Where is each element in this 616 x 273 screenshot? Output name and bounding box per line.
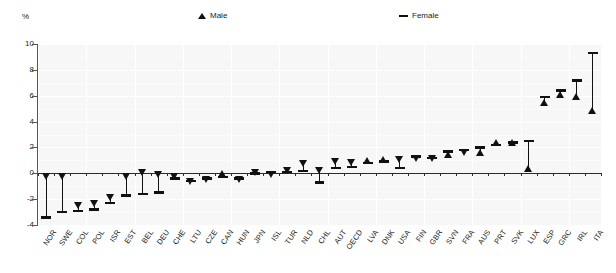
male-marker [476, 149, 484, 156]
male-marker [90, 200, 98, 207]
data-point-group[interactable] [408, 44, 424, 225]
male-marker [283, 167, 291, 174]
x-axis-category-label: CHE [170, 228, 187, 246]
male-marker [492, 139, 500, 146]
female-marker [73, 210, 83, 213]
data-point-group[interactable] [360, 44, 376, 225]
data-point-group[interactable] [344, 44, 360, 225]
male-marker [444, 151, 452, 158]
data-point-group[interactable] [215, 44, 231, 225]
male-marker [74, 202, 82, 209]
male-marker [299, 160, 307, 167]
x-axis-category-label: GBR [428, 228, 445, 247]
connector-stem [592, 53, 593, 114]
x-axis-category-label: AUS [476, 228, 492, 246]
female-marker [395, 167, 405, 170]
data-point-group[interactable] [569, 44, 585, 225]
data-point-group[interactable] [183, 44, 199, 225]
x-axis-category-label: ISR [108, 228, 123, 244]
data-point-group[interactable] [38, 44, 54, 225]
male-marker [331, 158, 339, 165]
data-point-group[interactable] [472, 44, 488, 225]
legend-item-female[interactable]: Female [399, 12, 439, 20]
male-marker [363, 157, 371, 164]
data-point-group[interactable] [54, 44, 70, 225]
data-point-group[interactable] [86, 44, 102, 225]
data-point-group[interactable] [392, 44, 408, 225]
data-point-group[interactable] [537, 44, 553, 225]
data-point-group[interactable] [135, 44, 151, 225]
data-point-group[interactable] [247, 44, 263, 225]
x-axis-category-label: NLD [300, 228, 316, 246]
female-marker [298, 170, 308, 173]
x-axis-category-label: TUR [283, 228, 299, 246]
data-point-group[interactable] [376, 44, 392, 225]
x-axis-category-label: ISL [270, 228, 284, 243]
male-marker [218, 170, 226, 177]
male-marker [138, 169, 146, 176]
data-point-group[interactable] [456, 44, 472, 225]
data-point-group[interactable] [151, 44, 167, 225]
male-marker [572, 93, 580, 100]
male-marker [170, 173, 178, 180]
x-axis-category-label: POL [91, 228, 107, 246]
y-axis-tick-label: 6 [8, 92, 34, 100]
female-marker [57, 211, 67, 214]
male-marker [186, 178, 194, 185]
x-axis-category-label: DEU [154, 228, 171, 246]
x-axis-category-label: BEL [139, 228, 155, 245]
x-axis-category-label: GRC [556, 228, 573, 247]
male-marker [460, 149, 468, 156]
data-point-group[interactable] [263, 44, 279, 225]
y-axis-tick-label: 8 [8, 66, 34, 74]
data-point-group[interactable] [118, 44, 134, 225]
x-axis-category-label: CAN [219, 228, 236, 246]
triangle-up-icon [198, 13, 206, 19]
x-axis-category-label: COL [74, 228, 90, 246]
y-axis-labels: -4-20246810 [0, 0, 34, 273]
x-axis-category-label: LUX [525, 228, 541, 245]
data-point-group[interactable] [199, 44, 215, 225]
data-point-group[interactable] [440, 44, 456, 225]
x-axis-category-label: FIN [414, 228, 428, 243]
data-point-group[interactable] [585, 44, 601, 225]
legend-item-male[interactable]: Male [198, 12, 227, 20]
data-point-group[interactable] [102, 44, 118, 225]
male-marker [58, 173, 66, 180]
x-axis-category-label: SWE [57, 228, 74, 247]
female-marker [475, 146, 485, 149]
data-point-group[interactable] [70, 44, 86, 225]
y-axis-tick-label: 0 [8, 169, 34, 177]
x-axis-category-label: SVN [444, 228, 460, 246]
data-point-group[interactable] [279, 44, 295, 225]
data-point-group[interactable] [521, 44, 537, 225]
x-axis-category-label: LVA [365, 228, 380, 244]
x-axis-category-label: EST [123, 228, 139, 245]
female-marker [572, 79, 582, 82]
data-point-group[interactable] [231, 44, 247, 225]
data-point-group[interactable] [488, 44, 504, 225]
y-axis-tick-label: -4 [8, 221, 34, 229]
data-point-group[interactable] [504, 44, 520, 225]
data-point-group[interactable] [424, 44, 440, 225]
x-axis-category-label: JPN [252, 228, 268, 245]
x-axis-category-label: NOR [41, 228, 58, 247]
male-marker [379, 156, 387, 163]
x-axis-category-label: IRL [575, 228, 589, 243]
female-marker [524, 140, 534, 143]
male-marker [524, 165, 532, 172]
data-point-group[interactable] [167, 44, 183, 225]
female-marker [121, 194, 131, 197]
female-marker [105, 202, 115, 205]
data-point-group[interactable] [553, 44, 569, 225]
female-marker [89, 208, 99, 211]
data-point-group[interactable] [328, 44, 344, 225]
male-marker [106, 194, 114, 201]
legend-label-female: Female [412, 12, 439, 20]
data-point-group[interactable] [295, 44, 311, 225]
male-marker [347, 159, 355, 166]
y-axis-tick-label: -2 [8, 195, 34, 203]
female-marker [154, 191, 164, 194]
data-point-group[interactable] [311, 44, 327, 225]
male-marker [154, 171, 162, 178]
